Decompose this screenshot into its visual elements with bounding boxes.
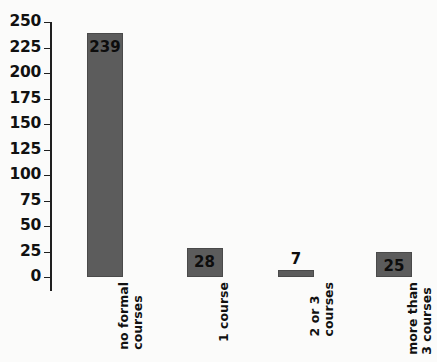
category-label-line: no formal	[116, 282, 131, 350]
y-tick-label: 75	[0, 193, 41, 209]
y-tick-label: 175	[0, 91, 41, 107]
x-axis-category-label: 2 or 3courses	[308, 282, 336, 336]
category-label-line: 2 or 3	[307, 296, 322, 337]
category-label-line: 1 course	[216, 282, 231, 342]
y-tick-label: 0	[0, 269, 41, 285]
x-axis-category-label: no formalcourses	[117, 282, 145, 350]
category-label-line: more than	[405, 282, 420, 355]
bar-value-label: 28	[194, 255, 215, 270]
y-tick-label: 225	[0, 40, 41, 56]
bar[interactable]: 25	[376, 252, 412, 278]
y-tick-label: 150	[0, 116, 41, 132]
y-tick-label: 50	[0, 218, 41, 234]
category-label-line: courses	[322, 282, 336, 336]
bar[interactable]: 28	[187, 248, 223, 277]
bar-chart: 2502252001751501251007550250 23928725 no…	[0, 0, 437, 362]
bar-value-label: 25	[384, 259, 405, 274]
x-axis-category-label: 1 course	[217, 282, 231, 342]
category-label-line: 3 courses	[420, 282, 434, 355]
y-axis-stub	[50, 277, 52, 291]
y-tick-label: 25	[0, 244, 41, 260]
y-tick-label: 125	[0, 142, 41, 158]
bar[interactable]: 239	[87, 33, 123, 277]
x-axis-category-label: more than3 courses	[406, 282, 434, 355]
y-tick-label: 200	[0, 65, 41, 81]
y-tick-mark	[44, 277, 51, 278]
bar-value-label: 7	[291, 252, 301, 267]
y-tick-label: 100	[0, 167, 41, 183]
y-tick-label: 250	[0, 14, 41, 30]
plot-area: 23928725	[50, 22, 418, 277]
bar[interactable]: 7	[278, 270, 314, 277]
bar-value-label: 239	[89, 40, 120, 55]
category-label-line: courses	[131, 282, 145, 350]
